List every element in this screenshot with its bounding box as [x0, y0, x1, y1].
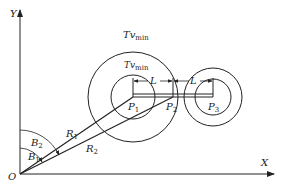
angle-label-b1: B1 — [27, 151, 40, 164]
y-axis-label: Y — [10, 8, 18, 19]
distance-label-2: L — [189, 75, 197, 86]
geometry-diagram: Y X O Tvmin Tvmin L L P1 P2 P3 R1 R2 — [0, 0, 286, 195]
outer-circle-label: Tvmin — [123, 29, 149, 42]
origin-label: O — [8, 171, 16, 182]
distance-label-1: L — [149, 75, 157, 86]
ray-label-r2: R2 — [85, 143, 98, 156]
point-label-p3: P3 — [207, 101, 219, 114]
ray-r2 — [20, 97, 173, 174]
inner-circle-label: Tvmin — [124, 60, 149, 72]
angle-label-b2: B2 — [30, 137, 43, 150]
point-label-p1: P1 — [127, 101, 139, 114]
diagram-canvas: Y X O Tvmin Tvmin L L P1 P2 P3 R1 R2 — [0, 0, 286, 195]
x-axis-label: X — [260, 157, 269, 168]
point-label-p2: P2 — [165, 101, 177, 114]
